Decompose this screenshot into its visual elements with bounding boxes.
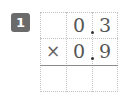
answer-cell[interactable] — [66, 66, 92, 92]
empty-cell — [40, 12, 66, 38]
multiplier-tenths-digit: 9 — [92, 38, 118, 64]
answer-cell[interactable] — [92, 66, 118, 92]
multiplication-grid: 0 3 × 0 9 — [40, 12, 118, 92]
multiplicand-tenths-digit: 3 — [92, 12, 118, 38]
answer-cell[interactable] — [40, 66, 66, 92]
decimal-point — [91, 31, 94, 34]
problem-number-badge: 1 — [11, 13, 30, 32]
decimal-point — [91, 57, 94, 60]
multiplicand-ones-digit: 0 — [66, 12, 92, 38]
multiply-operator: × — [40, 38, 66, 64]
multiplier-ones-digit: 0 — [66, 38, 92, 64]
